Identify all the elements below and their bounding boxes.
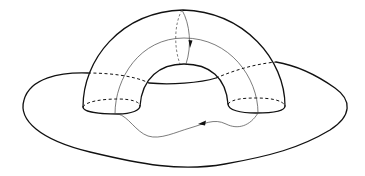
meridian-loop-back (176, 10, 182, 64)
meridian-loop-front (182, 10, 189, 64)
topology-diagram (0, 0, 365, 176)
attachment-curve-right-hidden (216, 62, 276, 78)
longitude-loop-arc (115, 38, 258, 114)
handle-right-foot-front (228, 104, 285, 113)
handle-left-foot-back (83, 99, 140, 107)
longitude-loop-wave (118, 113, 258, 137)
attachment-curve-left-hidden (88, 73, 149, 83)
handle-left-foot-front (83, 106, 140, 114)
diagram-svg (0, 0, 365, 176)
handle-inner-arc (140, 64, 228, 106)
attachment-curve-front (149, 78, 216, 84)
base-surface-outline (23, 62, 347, 167)
